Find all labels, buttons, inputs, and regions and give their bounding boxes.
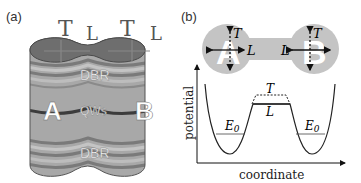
qws-label: QWs xyxy=(80,104,107,118)
mode-label-l-right: L xyxy=(150,23,162,44)
e0-right-label: E0 xyxy=(304,119,320,134)
mode-label-l-left: L xyxy=(86,23,98,44)
dbr-bottom-label: DBR xyxy=(80,145,110,161)
barrier-t-label: T xyxy=(266,82,275,96)
x-axis-label: coordinate xyxy=(239,168,304,182)
arrow-t-left: T xyxy=(233,26,243,41)
micropillar-diagram: T L T L DBR QWs DBR A B xyxy=(0,0,180,183)
arrow-l-right: L xyxy=(280,43,290,58)
arrow-t-right: T xyxy=(313,26,323,41)
dbr-top-label: DBR xyxy=(80,67,110,83)
pillar-b-label: B xyxy=(135,96,154,126)
panel-a-micropillar: (a) xyxy=(0,0,180,183)
mode-label-t-right: T xyxy=(120,16,135,41)
arrow-l-left: L xyxy=(246,43,256,58)
y-axis-label: potential xyxy=(182,86,196,140)
barrier-t-level xyxy=(252,95,290,104)
e0-left-label: E0 xyxy=(224,119,240,134)
double-well-diagram: A B T L T L potential coordinate E0 E0 T… xyxy=(180,0,361,183)
panel-b-potential: (b) A B T L T L potential coordinate E0 xyxy=(180,0,361,183)
barrier-l-label: L xyxy=(265,105,274,119)
pillar-a-label: A xyxy=(43,96,62,126)
mode-label-t-left: T xyxy=(58,16,73,41)
